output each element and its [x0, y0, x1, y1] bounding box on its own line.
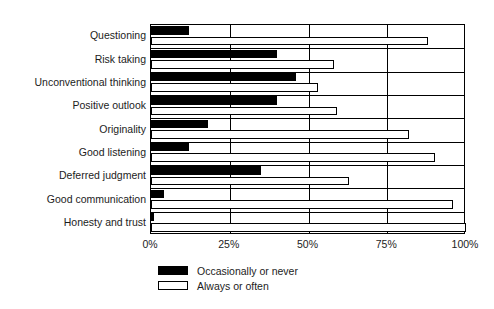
bar-group [151, 72, 464, 95]
y-axis-label: Deferred judgment [6, 170, 146, 181]
legend-label: Always or often [197, 280, 269, 292]
x-axis-tick: 50% [297, 238, 318, 250]
bar-always-or-often [151, 223, 466, 232]
bar-always-or-often [151, 153, 435, 162]
y-axis-label: Positive outlook [6, 100, 146, 111]
bar-always-or-often [151, 37, 428, 46]
plot-area [150, 24, 465, 234]
bar-occasionally-or-never [151, 143, 189, 152]
x-axis-tick-labels: 0%25%50%75%100% [150, 238, 465, 252]
x-axis-tick: 100% [452, 238, 479, 250]
bar-always-or-often [151, 130, 409, 139]
bar-occasionally-or-never [151, 213, 154, 222]
bar-group [151, 142, 464, 165]
bar-occasionally-or-never [151, 96, 277, 105]
y-axis-label: Good listening [6, 147, 146, 158]
chart-title [0, 0, 494, 2]
y-axis-category-labels: QuestioningRisk takingUnconventional thi… [6, 24, 146, 234]
bar-group [151, 25, 464, 48]
bar-occasionally-or-never [151, 73, 296, 82]
bar-always-or-often [151, 200, 453, 209]
legend-label: Occasionally or never [197, 265, 298, 277]
bar-group [151, 165, 464, 188]
legend-swatch-dark [158, 266, 188, 275]
legend-item: Occasionally or never [158, 263, 398, 278]
x-axis-tick: 75% [376, 238, 397, 250]
bar-chart: QuestioningRisk takingUnconventional thi… [0, 0, 494, 309]
x-axis-tick: 25% [218, 238, 239, 250]
bar-occasionally-or-never [151, 120, 208, 129]
bar-always-or-often [151, 177, 349, 186]
bar-always-or-often [151, 83, 318, 92]
bar-group [151, 95, 464, 118]
bar-group [151, 212, 464, 235]
y-axis-label: Unconventional thinking [6, 77, 146, 88]
legend-swatch-light [158, 281, 188, 290]
bar-occasionally-or-never [151, 190, 164, 199]
bar-group [151, 188, 464, 211]
bar-occasionally-or-never [151, 166, 261, 175]
bar-occasionally-or-never [151, 50, 277, 59]
bar-group [151, 48, 464, 71]
y-axis-label: Honesty and trust [6, 217, 146, 228]
y-axis-label: Risk taking [6, 54, 146, 65]
legend-item: Always or often [158, 278, 398, 293]
bar-group [151, 118, 464, 141]
y-axis-label: Good communication [6, 194, 146, 205]
bar-always-or-often [151, 107, 337, 116]
y-axis-label: Originality [6, 124, 146, 135]
y-axis-label: Questioning [6, 30, 146, 41]
bar-occasionally-or-never [151, 26, 189, 35]
x-axis-tick: 0% [142, 238, 157, 250]
bar-always-or-often [151, 60, 334, 69]
chart-legend: Occasionally or neverAlways or often [158, 263, 398, 293]
